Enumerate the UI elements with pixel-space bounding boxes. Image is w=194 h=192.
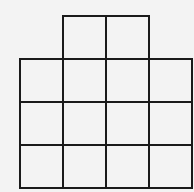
- grid-cell: [105, 101, 150, 146]
- grid-cell: [19, 144, 64, 189]
- grid-cell: [148, 101, 193, 146]
- grid-cell: [105, 58, 150, 103]
- grid-cell: [148, 144, 193, 189]
- grid-cell: [19, 101, 64, 146]
- grid-cell: [62, 15, 107, 60]
- grid-cell: [19, 58, 64, 103]
- grid-cell: [62, 144, 107, 189]
- grid-cell: [148, 58, 193, 103]
- grid-cell: [62, 101, 107, 146]
- grid-cell: [105, 15, 150, 60]
- grid-cell: [105, 144, 150, 189]
- grid-cell: [62, 58, 107, 103]
